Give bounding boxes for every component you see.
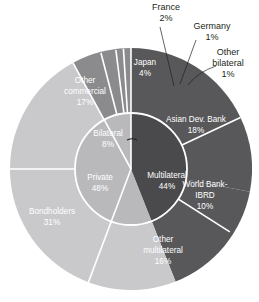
outer-label-other-multilateral-line2: multilateral — [143, 246, 183, 255]
outer-label-other-commercial-pct: 17% — [77, 98, 93, 107]
outer-label-japan-name: Japan — [134, 58, 157, 67]
callout-label-france: France 2% — [152, 2, 180, 23]
outer-label-other-multilateral-line1: Other — [153, 235, 174, 244]
sunburst-chart: Multilateral 44% Private 48% Bilateral 8… — [0, 0, 259, 302]
callout-label-germany: Germany 1% — [193, 21, 231, 42]
outer-label-world-bank-ibrd-pct: 10% — [197, 202, 213, 211]
callout-label-france-name: France — [152, 2, 180, 12]
callout-label-other-bilateral-line2: bilateral — [212, 58, 244, 68]
outer-label-asian-dev-bank-name: Asian Dev. Bank — [166, 115, 227, 124]
outer-label-other-commercial-line2: commercial — [64, 87, 106, 96]
callout-label-other-bilateral-line1: Other — [217, 47, 240, 57]
outer-label-japan-pct: 4% — [139, 69, 151, 78]
inner-label-bilateral-pct: 8% — [102, 140, 114, 149]
callout-label-other-bilateral: Other bilateral 1% — [212, 47, 244, 79]
outer-label-bondholders-pct: 31% — [44, 218, 60, 227]
inner-label-private-pct: 48% — [92, 184, 108, 193]
callout-label-france-pct: 2% — [159, 13, 172, 23]
inner-label-multilateral-pct: 44% — [159, 182, 175, 191]
pie-chart-svg: Multilateral 44% Private 48% Bilateral 8… — [0, 0, 259, 302]
callout-label-germany-name: Germany — [193, 21, 231, 31]
callout-label-other-bilateral-pct: 1% — [221, 69, 234, 79]
callout-label-germany-pct: 1% — [205, 32, 218, 42]
inner-label-bilateral-name: Bilateral — [93, 129, 123, 138]
outer-label-world-bank-ibrd-line2: IBRD — [195, 191, 215, 200]
inner-label-private-name: Private — [87, 173, 113, 182]
outer-label-world-bank-ibrd-line1: World Bank- — [183, 180, 228, 189]
outer-label-bondholders-name: Bondholders — [29, 207, 75, 216]
outer-label-asian-dev-bank-pct: 18% — [188, 126, 204, 135]
outer-label-other-commercial-line1: Other — [75, 76, 96, 85]
inner-label-multilateral-name: Multilateral — [147, 171, 187, 180]
outer-label-other-multilateral-pct: 16% — [155, 257, 171, 266]
